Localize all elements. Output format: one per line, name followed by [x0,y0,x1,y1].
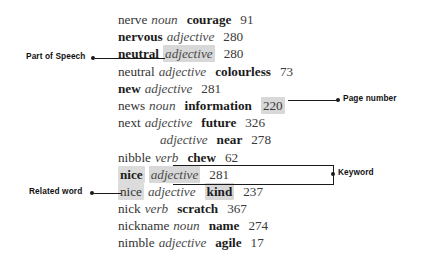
entry-page-number: 62 [225,150,238,165]
callout-dot-keyword [331,172,335,176]
entry-page-number: 91 [240,12,253,27]
entry-page-number: 281 [201,81,221,96]
entry-part-of-speech: noun [149,98,175,113]
entry-related-word: near [217,132,243,147]
callout-dot-page-number [336,98,340,102]
callout-label-part-of-speech: Part of Speech [26,51,86,61]
entry-headword: nimble [118,235,155,250]
entry-row: neutraladjectivecolourless73 [118,63,358,80]
dictionary-diagram: nervenouncourage91nervousadjective280neu… [0,0,421,260]
callout-leader-page-number [288,100,337,101]
entry-page-number: 280 [224,46,244,61]
entry-headword: nick [118,201,141,216]
entry-row: niceadjectivekind237 [118,183,358,200]
entry-row: nervenouncourage91 [118,11,358,28]
entry-row: nicknamenounname274 [118,217,358,234]
entry-related-word: courage [187,12,232,27]
entry-related-word: scratch [177,201,218,216]
entry-headword: neutral [118,46,159,61]
callout-leader-part-of-speech [95,58,165,59]
entry-part-of-speech: verb [155,150,178,165]
entry-related-word: name [209,218,240,233]
entry-related-word: information [184,98,251,113]
entry-row: nickverbscratch367 [118,200,358,217]
entry-part-of-speech: verb [145,201,168,216]
entry-headword: nice [118,166,145,183]
entry-headword: nervous [118,29,163,44]
entry-part-of-speech: adjective [145,115,193,130]
entry-part-of-speech: noun [173,218,199,233]
entry-headword: next [118,115,141,130]
entry-page-number: 326 [245,115,265,130]
entry-row: newadjective281 [118,80,358,97]
entry-list: nervenouncourage91nervousadjective280neu… [118,11,358,252]
entry-related-word: future [201,115,236,130]
entry-headword: neutral [118,64,155,79]
entry-part-of-speech: noun [151,12,177,27]
entry-headword: new [118,81,141,96]
entry-page-number: 278 [251,132,271,147]
entry-part-of-speech: adjective [160,132,208,147]
entry-page-number: 280 [223,29,243,44]
entry-part-of-speech: adjective [163,45,215,62]
entry-row: nibbleverbchew62 [118,149,358,166]
entry-part-of-speech: adjective [159,64,207,79]
entry-related-word: chew [187,150,216,165]
entry-page-number: 17 [251,235,264,250]
entry-headword: nibble [118,150,151,165]
entry-related-word: kind [205,183,235,200]
entry-part-of-speech: adjective [167,29,215,44]
entry-headword: news [118,98,145,113]
entry-headword: nickname [118,218,169,233]
entry-row: adjectivenear278 [118,131,358,148]
callout-label-keyword: Keyword [338,167,374,177]
entry-page-number: 237 [243,184,263,199]
entry-related-word: agile [215,235,241,250]
callout-label-page-number: Page number [343,93,397,103]
entry-row: nervousadjective280 [118,28,358,45]
entry-page-number: 73 [280,64,293,79]
entry-headword: nice [118,183,144,200]
callout-leader-related-word [94,193,121,194]
entry-row: neutraladjective280 [118,45,358,62]
entry-page-number: 220 [261,97,285,114]
entry-row: nimbleadjectiveagile17 [118,234,358,251]
entry-part-of-speech: adjective [159,235,207,250]
entry-related-word: colourless [215,64,271,79]
entry-page-number: 274 [248,218,268,233]
callout-label-related-word: Related word [29,186,82,196]
callout-bracket-keyword [173,165,334,185]
entry-part-of-speech: adjective [145,81,193,96]
entry-page-number: 367 [227,201,247,216]
entry-row: nextadjectivefuture326 [118,114,358,131]
entry-headword: nerve [118,12,147,27]
entry-part-of-speech: adjective [148,184,196,199]
